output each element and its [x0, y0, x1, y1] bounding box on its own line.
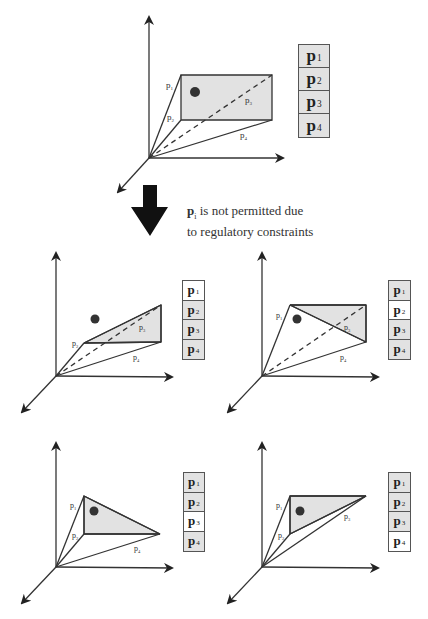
caption-line2: to regulatory constraints	[187, 224, 313, 239]
param-cell: p1	[184, 473, 204, 493]
label-p4: p4	[240, 130, 248, 141]
solution-dot	[190, 87, 200, 97]
param-cell: p4	[299, 114, 329, 137]
panel-without-p4: p1 p2 p3	[228, 443, 378, 603]
param-cell-disabled: p1	[183, 281, 204, 301]
param-box-without-p3: p1 p2 p3 p4	[183, 472, 205, 552]
svg-text:p1: p1	[276, 501, 282, 511]
panel-without-p2: p1 p3 p4	[228, 253, 378, 412]
edge-p1	[149, 75, 181, 158]
param-cell: p2	[183, 301, 204, 321]
param-cell: p2	[184, 493, 204, 513]
param-cell: p4	[183, 340, 204, 360]
svg-text:p2: p2	[278, 531, 284, 541]
param-cell: p1	[299, 45, 329, 68]
panel-without-p3: p1 p2 p4	[22, 443, 172, 603]
param-box-without-p4: p1 p2 p3 p4	[388, 472, 411, 552]
svg-text:p4: p4	[134, 544, 141, 554]
svg-text:p4: p4	[133, 353, 140, 363]
param-cell: p1	[389, 473, 410, 493]
caption-line1: is not permitted due	[196, 203, 303, 218]
svg-text:p1: p1	[276, 311, 282, 321]
feasible-region	[181, 75, 272, 120]
param-cell: p2	[299, 68, 329, 91]
label-p2: p2	[167, 112, 175, 123]
param-cell-disabled: p3	[184, 512, 204, 532]
diagram-canvas: p1 p2 p3 p4 p2 p3 p4	[0, 0, 428, 619]
param-box-without-p2: p1 p2 p3 p4	[388, 280, 411, 360]
param-cell: p1	[389, 281, 410, 301]
param-cell-disabled: p4	[389, 532, 410, 552]
param-box-without-p1: p1 p2 p3 p4	[182, 280, 205, 360]
param-cell: p4	[184, 532, 204, 552]
param-cell-disabled: p2	[389, 301, 410, 321]
edge-p2	[149, 120, 181, 158]
param-cell: p4	[389, 340, 410, 360]
edge-p4	[149, 120, 272, 158]
label-p1: p1	[166, 80, 174, 91]
param-cell: p3	[389, 320, 410, 340]
param-cell: p3	[183, 320, 204, 340]
param-cell: p3	[389, 512, 410, 532]
param-cell: p3	[299, 91, 329, 114]
constraint-caption: pi is not permitted due to regulatory co…	[187, 203, 313, 239]
param-cell: p2	[389, 493, 410, 513]
transition-arrow-icon	[131, 185, 168, 236]
param-box-original: p1 p2 p3 p4	[298, 44, 330, 138]
panel-without-p1: p2 p3 p4	[22, 253, 172, 412]
svg-text:p4: p4	[340, 353, 347, 363]
svg-text:p2: p2	[72, 339, 78, 349]
svg-text:p3: p3	[344, 512, 351, 522]
panel-original: p1 p2 p3 p4	[118, 17, 283, 192]
svg-text:p1: p1	[70, 501, 76, 511]
svg-text:p2: p2	[72, 531, 78, 541]
